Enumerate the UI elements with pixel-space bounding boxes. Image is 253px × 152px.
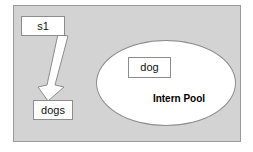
intern-pool-ellipse — [96, 40, 236, 126]
variable-box-s1-label: s1 — [37, 21, 49, 32]
string-object-dogs-label: dogs — [41, 105, 65, 116]
string-object-dog-label: dog — [140, 62, 158, 73]
variable-box-s1: s1 — [21, 16, 65, 36]
intern-pool-label: Intern Pool — [139, 94, 219, 104]
string-object-dog: dog — [128, 57, 171, 78]
diagram-canvas: dog Intern Pool s1 dogs — [0, 0, 253, 152]
string-object-dogs: dogs — [33, 100, 73, 120]
